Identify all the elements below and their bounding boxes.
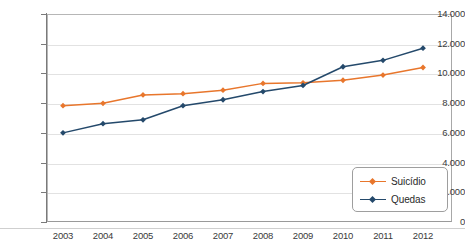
y-tick-label: 10.000 bbox=[425, 67, 465, 78]
x-tick-label: 2010 bbox=[321, 230, 365, 241]
legend-marker-suicidio-icon bbox=[360, 176, 386, 186]
y-tick-label: 4.000 bbox=[425, 157, 465, 168]
x-tick-label: 2003 bbox=[41, 230, 85, 241]
legend-marker-quedas-icon bbox=[360, 194, 386, 204]
caption-cutoff-text bbox=[182, 242, 184, 246]
gridline bbox=[48, 74, 451, 75]
caption-cutoff bbox=[0, 242, 465, 250]
legend-label-suicidio: Suicídio bbox=[391, 176, 426, 187]
gridline bbox=[48, 164, 451, 165]
gridline bbox=[48, 45, 451, 46]
legend-item-quedas[interactable]: Quedas bbox=[353, 190, 447, 208]
x-tick-label: 2009 bbox=[281, 230, 325, 241]
x-tick-label: 2008 bbox=[241, 230, 285, 241]
y-tick-mark bbox=[41, 222, 46, 223]
y-tick-label: 6.000 bbox=[425, 127, 465, 138]
y-axis-line bbox=[46, 13, 47, 223]
x-tick-label: 2012 bbox=[401, 230, 445, 241]
chart-legend: Suicídio Quedas bbox=[352, 167, 448, 212]
x-tick-label: 2005 bbox=[121, 230, 165, 241]
x-tick-label: 2011 bbox=[361, 230, 405, 241]
y-tick-label: 8.000 bbox=[425, 97, 465, 108]
x-tick-label: 2007 bbox=[201, 230, 245, 241]
line-chart: 02.0004.0006.0008.00010.00012.00014.000 … bbox=[0, 0, 465, 250]
y-tick-label: 0 bbox=[425, 216, 465, 227]
y-tick-label: 14.000 bbox=[425, 8, 465, 19]
x-tick-label: 2006 bbox=[161, 230, 205, 241]
legend-label-quedas: Quedas bbox=[391, 194, 425, 205]
gridline bbox=[48, 104, 451, 105]
y-tick-mark bbox=[41, 163, 46, 164]
x-axis-line bbox=[0, 228, 465, 229]
y-tick-label: 12.000 bbox=[425, 38, 465, 49]
y-tick-mark bbox=[41, 73, 46, 74]
y-tick-mark bbox=[41, 44, 46, 45]
legend-item-suicidio[interactable]: Suicídio bbox=[353, 172, 447, 190]
y-tick-mark bbox=[41, 192, 46, 193]
y-tick-mark bbox=[41, 103, 46, 104]
y-tick-mark bbox=[41, 14, 46, 15]
gridline bbox=[48, 134, 451, 135]
x-tick-label: 2004 bbox=[81, 230, 125, 241]
y-tick-mark bbox=[41, 133, 46, 134]
